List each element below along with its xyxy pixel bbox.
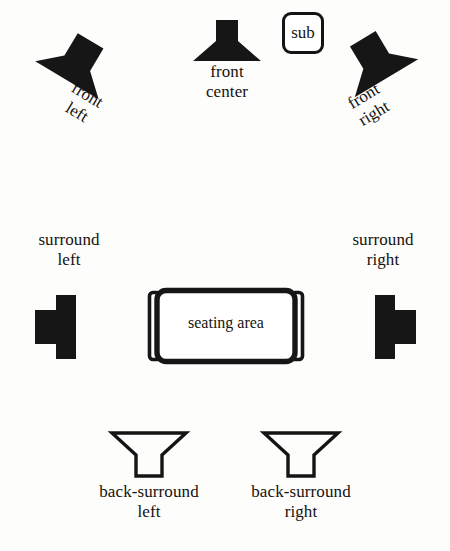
speaker-back-surround-left-label: back-surround left — [83, 482, 215, 522]
speaker-back-surround-left[interactable] — [110, 430, 188, 480]
speaker-surround-left[interactable] — [35, 294, 79, 360]
subwoofer-label: sub — [291, 24, 315, 42]
speaker-horn-icon — [372, 294, 416, 360]
speaker-front-center-label: front center — [182, 62, 272, 102]
seating-area[interactable]: seating area — [148, 288, 304, 364]
speaker-horn-icon — [35, 294, 79, 360]
speaker-placement-diagram: front left front center sub front right … — [0, 0, 450, 551]
speaker-horn-icon — [262, 430, 340, 480]
speaker-front-center[interactable] — [192, 20, 262, 62]
speaker-back-surround-right[interactable] — [262, 430, 340, 480]
speaker-surround-left-label: surround left — [14, 230, 124, 270]
subwoofer-box-icon[interactable]: sub — [282, 12, 324, 54]
speaker-back-surround-right-label: back-surround right — [235, 482, 367, 522]
seating-area-label: seating area — [148, 314, 304, 332]
speaker-surround-right-label: surround right — [328, 230, 438, 270]
speaker-horn-icon — [192, 20, 262, 62]
speaker-horn-icon — [110, 430, 188, 480]
speaker-surround-right[interactable] — [372, 294, 416, 360]
